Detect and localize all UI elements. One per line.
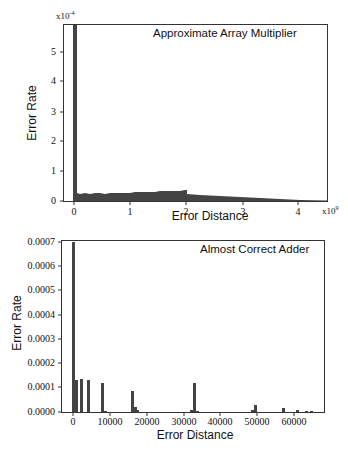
x-tick-label: 30000 bbox=[164, 416, 204, 427]
x-tick-label: 20000 bbox=[127, 416, 167, 427]
x-tick-label: 40000 bbox=[200, 416, 240, 427]
x-axis-label: Error Distance bbox=[115, 428, 275, 442]
y-tick-label: 0.0000 bbox=[5, 406, 55, 417]
chart-almost-correct-adder: Almost Correct Adder 0.0000 0.0001 0.000… bbox=[0, 0, 348, 451]
bar bbox=[87, 380, 90, 412]
x-tick-label: 50000 bbox=[237, 416, 277, 427]
bar bbox=[310, 411, 313, 412]
bar bbox=[80, 379, 83, 412]
x-tick-label: 0 bbox=[53, 416, 93, 427]
bar bbox=[101, 383, 104, 412]
bar bbox=[190, 410, 193, 412]
bar bbox=[137, 410, 139, 412]
bar bbox=[134, 407, 137, 412]
bar bbox=[131, 391, 134, 412]
y-tick-label: 0.0001 bbox=[5, 381, 55, 392]
chart-title: Almost Correct Adder bbox=[200, 243, 309, 255]
bar bbox=[72, 242, 75, 412]
x-tick-label: 60000 bbox=[274, 416, 314, 427]
y-axis-label: Error Rate bbox=[10, 273, 24, 373]
bar bbox=[193, 383, 196, 412]
bar bbox=[75, 380, 78, 412]
bar bbox=[282, 408, 285, 412]
bar bbox=[196, 411, 199, 412]
bar bbox=[251, 410, 254, 412]
y-tick-label: 0.0006 bbox=[5, 260, 55, 271]
bar bbox=[296, 410, 299, 412]
x-tick-label: 10000 bbox=[90, 416, 130, 427]
bar bbox=[254, 405, 257, 412]
bar bbox=[305, 411, 308, 412]
y-tick-label: 0.0007 bbox=[5, 236, 55, 247]
bar bbox=[104, 411, 107, 412]
